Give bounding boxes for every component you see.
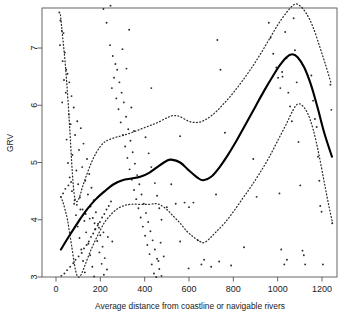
data-point — [94, 222, 96, 224]
data-point — [314, 118, 316, 120]
data-point — [87, 243, 89, 245]
data-point — [71, 95, 73, 97]
data-point — [141, 194, 143, 196]
data-point — [65, 92, 67, 94]
y-tick-label: 3 — [29, 274, 39, 279]
data-point — [103, 274, 105, 276]
data-point — [63, 273, 65, 275]
data-point — [298, 141, 300, 143]
data-point — [215, 194, 217, 196]
data-point — [70, 181, 72, 183]
data-point — [64, 188, 66, 190]
data-point — [126, 68, 128, 70]
data-point — [82, 209, 84, 211]
data-point — [278, 192, 280, 194]
data-point — [74, 134, 76, 136]
plot-frame — [42, 8, 337, 277]
data-point — [188, 267, 190, 269]
data-point — [151, 263, 153, 265]
y-tick-label: 7 — [29, 45, 39, 50]
data-point — [67, 184, 69, 186]
data-point — [256, 196, 258, 198]
data-point — [166, 206, 168, 208]
chart-canvas: 020040060080010001200 34567 Average dist… — [0, 0, 349, 320]
data-point — [140, 217, 142, 219]
data-point — [230, 265, 232, 267]
data-point — [312, 100, 314, 102]
data-point — [179, 135, 181, 137]
data-point — [321, 211, 323, 213]
data-point — [73, 203, 75, 205]
data-point — [216, 39, 218, 41]
data-point — [160, 242, 162, 244]
confidence-bands-layer — [60, 4, 332, 277]
data-point — [85, 231, 87, 233]
data-point — [79, 209, 81, 211]
data-point — [71, 190, 73, 192]
x-tick-label: 0 — [53, 284, 58, 294]
data-point — [78, 149, 80, 151]
data-point — [102, 246, 104, 248]
data-point — [179, 241, 181, 243]
data-point — [330, 109, 332, 111]
data-point — [97, 223, 99, 225]
data-point — [148, 152, 150, 154]
data-point — [121, 92, 123, 94]
data-point — [132, 151, 134, 153]
data-point — [111, 241, 113, 243]
data-point — [62, 60, 64, 62]
data-point — [88, 241, 90, 243]
data-point — [83, 143, 85, 145]
data-point — [272, 53, 274, 55]
data-point — [138, 207, 140, 209]
data-point — [138, 183, 140, 185]
data-point — [91, 187, 93, 189]
data-point — [142, 226, 144, 228]
data-point — [82, 260, 84, 262]
data-point — [319, 205, 321, 207]
data-point — [63, 32, 65, 34]
scatter-plot-figure: 020040060080010001200 34567 Average dist… — [0, 0, 349, 320]
data-point — [144, 235, 146, 237]
data-point — [252, 158, 254, 160]
data-point — [86, 158, 88, 160]
y-tick-label: 5 — [29, 160, 39, 165]
data-point — [110, 200, 112, 202]
data-point — [192, 202, 194, 204]
data-point — [149, 253, 151, 255]
data-point — [322, 263, 324, 265]
data-point — [90, 236, 92, 238]
data-point — [146, 244, 148, 246]
data-point — [88, 173, 90, 175]
data-point — [102, 231, 104, 233]
data-point — [80, 249, 82, 251]
data-point — [68, 81, 70, 83]
data-point — [170, 183, 172, 185]
data-point — [175, 203, 177, 205]
data-point — [125, 116, 127, 118]
data-point — [286, 259, 288, 261]
data-point — [58, 12, 60, 14]
data-point — [104, 257, 106, 259]
data-point — [93, 275, 95, 277]
data-point — [155, 276, 157, 278]
x-tick-label: 400 — [137, 284, 152, 294]
data-point — [101, 217, 103, 219]
data-point — [62, 192, 64, 194]
data-point — [81, 252, 83, 254]
data-point — [310, 75, 312, 77]
data-point — [67, 73, 69, 75]
data-point — [83, 220, 85, 222]
data-point — [294, 49, 296, 51]
data-point — [76, 204, 78, 206]
data-point — [279, 87, 281, 89]
data-point — [118, 108, 120, 110]
data-point — [66, 139, 68, 141]
data-point — [84, 271, 86, 273]
data-point — [145, 212, 147, 214]
data-point — [127, 128, 129, 130]
data-point — [129, 168, 131, 170]
data-point — [161, 275, 163, 277]
data-point — [110, 5, 112, 7]
fitted-curve-layer — [61, 54, 332, 249]
